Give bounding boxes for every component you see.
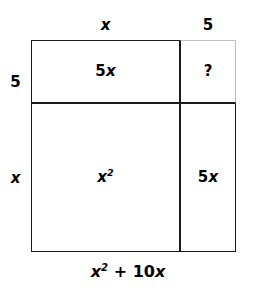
caption-term: 10 <box>133 262 155 281</box>
question-mark-label: ? <box>204 64 213 79</box>
cell-bottom-right-variable: x <box>208 168 218 186</box>
dimension-label-left-x: x <box>4 158 27 198</box>
caption-variable: x <box>91 262 101 281</box>
cell-top-left-coefficient: 5 <box>95 62 106 80</box>
dimension-label-top-x: x <box>31 18 180 33</box>
diagram-canvas: x 5 5 x 5x ? x2 5x x2 + 10x <box>0 0 256 300</box>
cell-top-left: 5x <box>31 40 180 103</box>
caption-plus-sign: + <box>114 262 127 281</box>
cell-bottom-left: x2 <box>31 103 180 252</box>
cell-bottom-left-variable: x <box>97 168 107 186</box>
cell-bottom-right-coefficient: 5 <box>198 168 209 186</box>
cell-top-right: ? <box>180 40 236 103</box>
cell-bottom-right-label: 5x <box>198 170 219 185</box>
cell-bottom-left-exponent: 2 <box>107 167 114 178</box>
cell-top-left-label: 5x <box>95 64 116 79</box>
dimension-label-top-5: 5 <box>180 18 236 33</box>
dimension-label-left-5: 5 <box>4 63 27 101</box>
cell-top-left-variable: x <box>106 62 116 80</box>
cell-bottom-left-label: x2 <box>97 170 114 185</box>
area-model-box: 5x ? x2 5x <box>31 40 236 252</box>
caption-expression: x2 + 10x <box>0 264 256 280</box>
cell-bottom-right: 5x <box>180 103 236 252</box>
caption-term-variable: x <box>155 262 165 281</box>
